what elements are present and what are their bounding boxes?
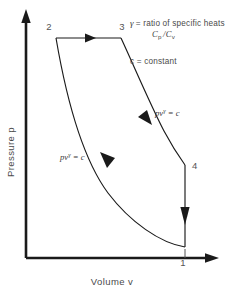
process-1-2-curve — [56, 38, 185, 247]
curve-label-upper-base: pv — [154, 108, 163, 118]
arrow-down-right-icon — [138, 110, 152, 125]
curve-label-lower-tail: = c — [71, 152, 85, 162]
gamma-definition-line: γ= ratio of specific heats — [130, 18, 225, 28]
process-4-1 — [180, 165, 189, 247]
curve-label-upper-tail: = c — [166, 108, 180, 118]
pv-diagram-canvas: 2 3 4 1 pvγ = c pvγ = c γ= ratio of spec… — [0, 0, 238, 296]
process-2-3 — [56, 33, 121, 42]
curve-label-upper: pvγ = c — [154, 107, 180, 118]
x-axis-label: Volume v — [91, 276, 133, 287]
process-1-2 — [56, 38, 185, 247]
gamma-ratio-numerator-subscript: p — [158, 33, 162, 40]
process-1-2-label: pvγ = c — [59, 151, 85, 162]
curve-label-lower: pvγ = c — [59, 151, 85, 162]
gamma-definition-text: = ratio of specific heats — [136, 19, 225, 28]
axis-group — [21, 9, 219, 263]
arrow-right-icon — [205, 253, 219, 262]
state-point-label-3: 3 — [119, 21, 124, 32]
gamma-note: γ= ratio of specific heats Cp/Cv — [130, 18, 225, 40]
gamma-ratio-separator: /C — [162, 29, 172, 39]
pv-diagram-figure: 2 3 4 1 pvγ = c pvγ = c γ= ratio of spec… — [0, 0, 238, 296]
state-point-label-4: 4 — [192, 160, 197, 171]
state-point-label-1: 1 — [180, 257, 185, 268]
curve-label-lower-base: pv — [59, 152, 68, 162]
arrow-up-icon — [21, 9, 30, 23]
arrow-up-left-icon — [100, 152, 115, 168]
gamma-ratio-line: Cp/Cv — [152, 29, 176, 40]
process-3-4-label: pvγ = c — [154, 107, 180, 118]
y-axis-label: Pressure p — [5, 127, 16, 177]
gamma-symbol: γ — [130, 18, 134, 28]
gamma-ratio-denominator-subscript: v — [172, 33, 176, 40]
arrow-right-icon — [85, 33, 96, 42]
constant-note: c = constant — [130, 57, 177, 66]
arrow-down-icon — [180, 207, 189, 225]
state-point-label-2: 2 — [46, 21, 51, 32]
